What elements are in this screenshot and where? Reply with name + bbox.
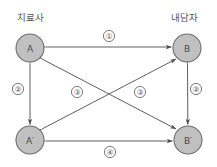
marker-2-right-text: ②	[193, 85, 200, 94]
node-b[interactable]: B	[173, 34, 201, 62]
node-a-prime-label: A′	[26, 136, 34, 146]
node-b-label: B	[184, 44, 190, 54]
marker-4-text: ④	[107, 148, 114, 157]
node-a-prime[interactable]: A′	[16, 126, 44, 154]
diagram-canvas: A B A′ B′ 치료사 내담자 ①	[0, 0, 217, 167]
marker-2-right: ②	[190, 83, 201, 94]
relationship-diagram: A B A′ B′ 치료사 내담자 ①	[0, 0, 217, 167]
node-a-label: A	[27, 44, 34, 54]
node-b-prime-label: B′	[184, 136, 192, 146]
marker-1-text: ①	[106, 32, 113, 41]
marker-2-left: ②	[12, 83, 23, 94]
marker-4: ④	[104, 146, 115, 157]
node-a[interactable]: A	[16, 34, 44, 62]
role-label-client: 내담자	[171, 12, 198, 23]
edge-group	[30, 47, 188, 141]
marker-3-right: ③	[134, 86, 145, 97]
marker-3-right-text: ③	[137, 88, 144, 97]
marker-3-left: ③	[71, 86, 82, 97]
marker-3-left-text: ③	[74, 88, 81, 97]
marker-1: ①	[103, 30, 114, 41]
marker-2-left-text: ②	[15, 85, 22, 94]
role-label-group: 치료사 내담자	[17, 12, 198, 23]
role-label-therapist: 치료사	[17, 12, 44, 23]
node-b-prime[interactable]: B′	[174, 126, 202, 154]
